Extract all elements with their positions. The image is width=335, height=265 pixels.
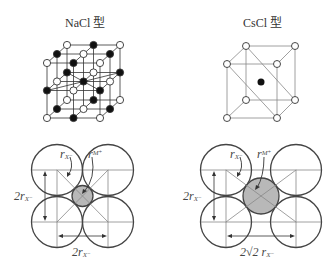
cation-node bbox=[53, 50, 60, 57]
anion-node bbox=[106, 78, 113, 85]
anion-node bbox=[116, 41, 123, 48]
anion-node bbox=[70, 87, 77, 94]
horizontal-dimension-label: 2√2 rX⁻ bbox=[240, 245, 275, 259]
cscl-title: CsCl 型 bbox=[243, 16, 282, 30]
anion-node bbox=[274, 61, 281, 68]
anion-node bbox=[224, 61, 231, 68]
anion-node bbox=[43, 114, 50, 121]
anion-node bbox=[63, 41, 70, 48]
anion-node bbox=[292, 43, 299, 50]
anion-node bbox=[96, 114, 103, 121]
cation-node bbox=[106, 50, 113, 57]
anion-node bbox=[116, 96, 123, 103]
nacl-title: NaCl 型 bbox=[65, 16, 105, 30]
nacl-section-diagram: rX⁻ rM⁺ 2rX⁻ 2rX⁻ bbox=[14, 145, 134, 260]
anion-node bbox=[274, 115, 281, 122]
anion-node bbox=[80, 50, 87, 57]
anion-node bbox=[80, 105, 87, 112]
cation-node bbox=[80, 78, 87, 85]
cation-node bbox=[53, 105, 60, 112]
anion-node bbox=[43, 59, 50, 66]
anion-node bbox=[224, 115, 231, 122]
cation-node bbox=[70, 59, 77, 66]
anion-node bbox=[63, 96, 70, 103]
anion-node bbox=[243, 97, 250, 104]
cation-node bbox=[70, 114, 77, 121]
cscl-section-diagram: rX⁻ rM⁺ 2rX⁻ 2√2 rX⁻ bbox=[183, 145, 322, 260]
anion-node bbox=[90, 69, 97, 76]
cation-node bbox=[116, 69, 123, 76]
anion-node bbox=[292, 97, 299, 104]
ionic-crystal-figure: NaCl 型 CsCl 型 bbox=[0, 0, 335, 265]
cscl-lattice bbox=[224, 43, 299, 122]
cation-node bbox=[258, 79, 265, 86]
horizontal-dimension-label: 2rX⁻ bbox=[72, 245, 91, 259]
cation-node bbox=[96, 87, 103, 94]
cation-node bbox=[90, 96, 97, 103]
vertical-dimension-label: 2rX⁻ bbox=[183, 189, 202, 203]
r-cation-label: rM⁺ bbox=[88, 147, 103, 161]
nacl-lattice bbox=[43, 41, 123, 121]
anion-node bbox=[96, 59, 103, 66]
cation-node bbox=[43, 87, 50, 94]
vertical-dimension-label: 2rX⁻ bbox=[14, 189, 33, 203]
cation-node bbox=[106, 105, 113, 112]
cation-node bbox=[63, 69, 70, 76]
anion-node bbox=[53, 78, 60, 85]
anion-node bbox=[243, 43, 250, 50]
cation-node bbox=[90, 41, 97, 48]
